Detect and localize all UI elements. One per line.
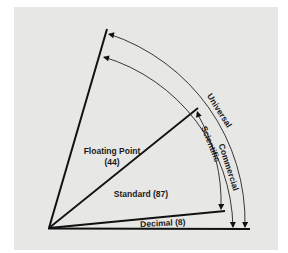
decimal-label: Decimal (8) bbox=[140, 217, 186, 229]
decimal-boundary-line bbox=[49, 211, 225, 228]
floating-point-count: (44) bbox=[104, 157, 119, 167]
instruction-set-diagram: Floating Point (44) Standard (87) Decima… bbox=[0, 0, 288, 253]
commercial-arrowhead bbox=[102, 54, 109, 61]
standard-label: Standard (87) bbox=[114, 189, 168, 199]
floating-point-label: Floating Point bbox=[84, 146, 141, 156]
universal-arrowhead bbox=[107, 31, 114, 38]
universal-label: Universal bbox=[205, 92, 234, 130]
floating-point-boundary-line bbox=[49, 29, 107, 228]
standard-boundary-line bbox=[49, 108, 198, 228]
